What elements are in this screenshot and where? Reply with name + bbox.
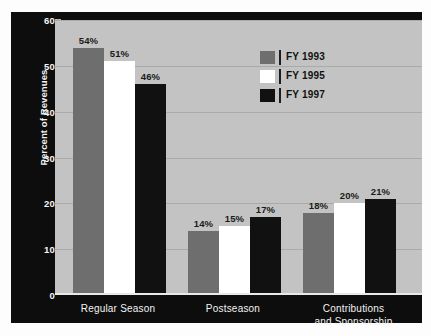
y-tick-label: 20: [29, 198, 55, 209]
data-label-contributions-fy1995: 20%: [334, 190, 365, 201]
gridline: [55, 20, 422, 21]
data-label-contributions-fy1993: 18%: [303, 200, 334, 211]
bar-regular-season-fy1997: [135, 84, 166, 295]
y-tick-label: 50: [29, 60, 55, 71]
legend-divider: [279, 88, 281, 103]
data-label-regular-season-fy1995: 51%: [104, 48, 135, 59]
y-tick-label: 0: [29, 290, 55, 301]
y-tick-label: 40: [29, 106, 55, 117]
x-axis-line: [55, 293, 422, 295]
legend-label-fy1995: FY 1995: [286, 70, 325, 81]
chart-panel: Percent of Revenues 60 50 40 30 20 10 0: [11, 12, 422, 323]
bar-contributions-fy1995: [334, 203, 365, 295]
legend-divider: [279, 69, 281, 84]
legend-label-fy1997: FY 1997: [286, 89, 325, 100]
data-label-regular-season-fy1993: 54%: [73, 35, 104, 46]
x-axis-label-line1: Contributions: [323, 303, 385, 314]
bar-postseason-fy1993: [188, 231, 219, 295]
legend-swatch-fy1997: [260, 89, 275, 102]
y-tick-label: 60: [29, 15, 55, 26]
legend-label-fy1993: FY 1993: [286, 51, 325, 62]
legend-swatch-fy1993: [260, 51, 275, 64]
x-axis-label-contributions: Contributions and Sponsorship: [291, 302, 416, 328]
bar-chart: Percent of Revenues 60 50 40 30 20 10 0: [0, 0, 431, 336]
y-axis-ticks: 60 50 40 30 20 10 0: [25, 12, 55, 323]
x-axis-label-line2: and Sponsorship: [314, 316, 392, 327]
data-label-contributions-fy1997: 21%: [365, 186, 396, 197]
bar-contributions-fy1997: [365, 199, 396, 295]
legend-divider: [279, 50, 281, 65]
plot-area: 54% 51% 46% 14% 15% 17% 18% 20% 21%: [55, 20, 422, 295]
bar-regular-season-fy1993: [73, 48, 104, 296]
bar-regular-season-fy1995: [104, 61, 135, 295]
x-axis-label-line1: Postseason: [206, 303, 260, 314]
x-axis-label-postseason: Postseason: [178, 302, 288, 315]
legend-swatch-fy1995: [260, 70, 275, 83]
x-axis-label-regular-season: Regular Season: [63, 302, 173, 315]
data-label-postseason-fy1995: 15%: [219, 213, 250, 224]
y-tick-label: 30: [29, 152, 55, 163]
data-label-regular-season-fy1997: 46%: [135, 71, 166, 82]
x-axis-label-line1: Regular Season: [81, 303, 156, 314]
y-tick-label: 10: [29, 244, 55, 255]
bar-postseason-fy1995: [219, 226, 250, 295]
data-label-postseason-fy1997: 17%: [250, 204, 281, 215]
bar-postseason-fy1997: [250, 217, 281, 295]
bar-contributions-fy1993: [303, 213, 334, 296]
data-label-postseason-fy1993: 14%: [188, 218, 219, 229]
